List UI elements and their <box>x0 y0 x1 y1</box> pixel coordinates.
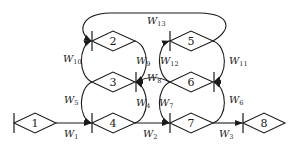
label-w3: W3 <box>219 128 233 141</box>
edge-w6 <box>213 82 224 123</box>
label-w9: W9 <box>136 55 150 68</box>
node-1: 1 <box>14 113 56 133</box>
svg-text:5: 5 <box>188 35 195 48</box>
node-7: 7 <box>170 113 213 133</box>
svg-text:7: 7 <box>188 117 195 130</box>
label-w1: W1 <box>64 128 78 141</box>
node-8: 8 <box>243 113 285 133</box>
label-w10: W10 <box>63 53 82 66</box>
svg-text:2: 2 <box>110 35 117 48</box>
edge-w11 <box>213 41 224 82</box>
svg-text:1: 1 <box>32 117 39 130</box>
label-w5: W5 <box>64 94 78 107</box>
node-3: 3 <box>92 72 136 92</box>
node-4: 4 <box>92 113 135 133</box>
edge-w5 <box>81 82 92 123</box>
node-2: 2 <box>92 31 135 51</box>
flow-diagram: 1 4 7 8 3 6 2 5 W1 W2 W3 <box>0 0 292 145</box>
label-w12: W12 <box>160 55 179 68</box>
node-6: 6 <box>170 72 214 92</box>
label-w13: W13 <box>147 15 166 28</box>
label-w8: W8 <box>147 72 161 85</box>
label-w11: W11 <box>229 55 248 68</box>
svg-text:3: 3 <box>110 76 117 89</box>
label-w4: W4 <box>136 97 150 110</box>
svg-text:6: 6 <box>188 76 195 89</box>
label-w6: W6 <box>229 94 243 107</box>
edge-w10 <box>81 41 92 82</box>
node-5: 5 <box>170 31 213 51</box>
svg-text:4: 4 <box>110 117 117 130</box>
label-w7: W7 <box>159 97 173 110</box>
label-w2: W2 <box>143 128 157 141</box>
svg-text:8: 8 <box>261 117 268 130</box>
